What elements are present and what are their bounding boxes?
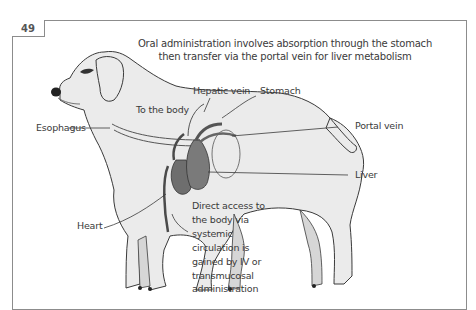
- note-line: the body via: [192, 213, 265, 227]
- label-to-the-body: To the body: [136, 104, 189, 116]
- note-line: transmucosal: [192, 269, 265, 283]
- label-liver: Liver: [355, 169, 377, 181]
- dog-nose: [51, 88, 61, 97]
- note-line: systemic: [192, 227, 265, 241]
- figure-caption: Oral administration involves absorption …: [120, 37, 450, 63]
- label-heart: Heart: [77, 220, 102, 232]
- figure-number: 49: [12, 20, 45, 37]
- note-line: Direct access to: [192, 199, 265, 213]
- iv-access-note: Direct access to the body via systemic c…: [192, 199, 265, 296]
- note-line: circulation is: [192, 241, 265, 255]
- note-line: administration: [192, 282, 265, 296]
- caption-line-2: then transfer via the portal vein for li…: [120, 50, 450, 63]
- label-stomach: Stomach: [260, 85, 301, 97]
- label-portal-vein: Portal vein: [355, 120, 403, 132]
- label-hepatic-vein: Hepatic vein: [193, 85, 250, 97]
- note-line: gained by IV or: [192, 255, 265, 269]
- label-esophagus: Esophagus: [36, 122, 86, 134]
- caption-line-1: Oral administration involves absorption …: [120, 37, 450, 50]
